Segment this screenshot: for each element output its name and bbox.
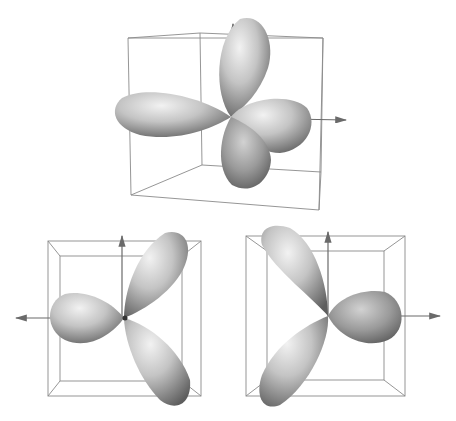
lobe-lower-left — [259, 316, 328, 407]
lobe-right — [328, 291, 402, 343]
bottom-right-panel — [246, 226, 440, 407]
lobe-upper-right — [124, 232, 188, 318]
orbital-diagram — [0, 0, 456, 421]
bottom-left-panel — [16, 232, 201, 406]
lobe-upper-left — [261, 226, 328, 316]
lobe-lower-right — [124, 318, 190, 406]
nucleus — [123, 316, 128, 321]
lobe-left — [115, 92, 231, 137]
lobe-left — [50, 293, 124, 343]
top-panel — [115, 18, 346, 210]
